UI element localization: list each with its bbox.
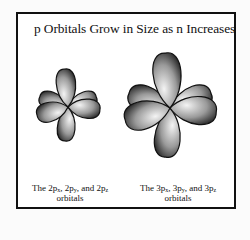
caption-3p: The 3px, 3py, and 3pz orbitals: [128, 183, 228, 203]
orbital-2p-illustration: [33, 62, 103, 152]
caption-2p: The 2px, 2py, and 2pz orbitals: [27, 183, 113, 203]
diagram-title: p Orbitals Grow in Size as n Increases: [34, 21, 235, 37]
caption-2p-line2: orbitals: [27, 193, 113, 203]
caption-3p-line1: The 3px, 3py, and 3pz: [128, 183, 228, 193]
orbital-3p-illustration: [115, 48, 225, 168]
caption-3p-line2: orbitals: [128, 193, 228, 203]
caption-2p-line1: The 2px, 2py, and 2pz: [27, 183, 113, 193]
